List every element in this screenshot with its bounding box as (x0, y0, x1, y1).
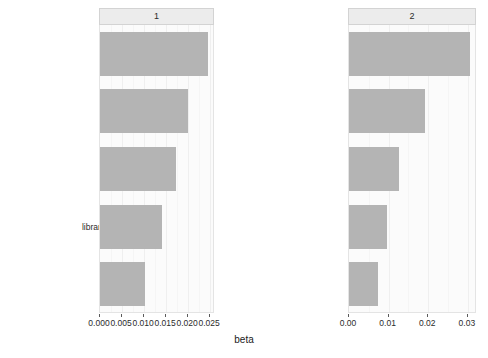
x-tick-mark (99, 314, 100, 317)
bar (100, 205, 162, 249)
x-tick-label: 0.03 (459, 318, 476, 328)
bar (349, 262, 378, 306)
facet-panel-2: 2 (348, 8, 476, 313)
x-tick-mark (121, 314, 122, 317)
x-tick-mark (427, 314, 428, 317)
x-tick-mark (143, 314, 144, 317)
bar (349, 89, 425, 133)
x-tick-label: 0.015 (154, 318, 175, 328)
x-tick-mark (187, 314, 188, 317)
x-tick-label: 0.02 (419, 318, 436, 328)
x-tick-label: 0.020 (176, 318, 197, 328)
bar (349, 32, 470, 76)
bar (100, 32, 208, 76)
x-tick-mark (388, 314, 389, 317)
x-tick-mark (348, 314, 349, 317)
x-tick-label: 0.01 (379, 318, 396, 328)
x-tick-mark (467, 314, 468, 317)
facet-panel-1: 1 (99, 8, 214, 313)
facet-2-x-axis: 0.000.010.020.03 (348, 314, 476, 332)
bar (100, 147, 176, 191)
facet-1-x-axis: 0.0000.0050.0100.0150.0200.025 (99, 314, 214, 332)
x-tick-mark (209, 314, 210, 317)
faceted-bar-chart: term academic libraries–information lite… (0, 0, 488, 358)
bar (349, 147, 399, 191)
facet-2-strip-label: 2 (348, 8, 476, 25)
x-tick-label: 0.025 (199, 318, 220, 328)
facet-1-plot-area (99, 25, 214, 313)
x-tick-mark (165, 314, 166, 317)
facet-1-strip-label: 1 (99, 8, 214, 25)
x-axis-title: beta (0, 334, 488, 345)
x-tick-label: 0.000 (88, 318, 109, 328)
bar (100, 89, 188, 133)
gridline (210, 25, 211, 312)
bar (349, 205, 387, 249)
bar (100, 262, 145, 306)
x-tick-label: 0.010 (132, 318, 153, 328)
facet-2-plot-area (348, 25, 476, 313)
x-tick-label: 0.00 (340, 318, 357, 328)
x-tick-label: 0.005 (110, 318, 131, 328)
